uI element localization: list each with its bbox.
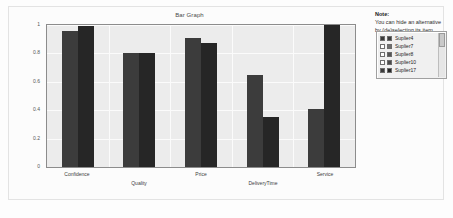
y-axis-tick-label: 0.4 bbox=[12, 106, 40, 112]
color-swatch-icon bbox=[387, 36, 392, 41]
legend-item[interactable]: Suplier10 bbox=[378, 58, 439, 66]
legend-item-label: Suplier17 bbox=[395, 67, 416, 73]
x-axis-tick-label: Service bbox=[317, 171, 334, 177]
plot-area bbox=[46, 24, 356, 168]
x-axis-tick: Quality bbox=[108, 169, 170, 193]
note-title: Note: bbox=[375, 11, 447, 18]
color-swatch-icon bbox=[387, 60, 392, 65]
legend-item[interactable]: Suplier4 bbox=[378, 34, 439, 42]
bar bbox=[123, 53, 139, 167]
legend-item-label: Suplier8 bbox=[395, 51, 413, 57]
bar-group bbox=[232, 25, 294, 167]
chart-container: Bar Graph 00.20.40.60.81 ConfidenceQuali… bbox=[12, 8, 367, 193]
bar bbox=[247, 75, 263, 167]
note-line-1: You can hide an alternative bbox=[375, 19, 447, 26]
x-axis-tick-label: Confidence bbox=[64, 171, 89, 177]
color-swatch-icon bbox=[387, 44, 392, 49]
y-axis-tick-label: 0.6 bbox=[12, 78, 40, 84]
legend-item-label: Suplier4 bbox=[395, 35, 413, 41]
chart-title: Bar Graph bbox=[12, 12, 367, 18]
bar-group bbox=[170, 25, 232, 167]
legend-item-label: Suplier7 bbox=[395, 43, 413, 49]
bar bbox=[139, 53, 155, 167]
legend-item-label: Suplier10 bbox=[395, 59, 416, 65]
bar-group bbox=[293, 25, 355, 167]
legend-scrollbar-thumb[interactable] bbox=[439, 33, 445, 47]
y-axis-tick-label: 0.2 bbox=[12, 135, 40, 141]
y-axis-tick-label: 1 bbox=[12, 21, 40, 27]
legend-scrollbar[interactable] bbox=[438, 33, 445, 77]
checkbox-icon[interactable] bbox=[380, 52, 385, 57]
x-axis-tick: DeliveryTime bbox=[232, 169, 294, 193]
x-axis-tick-label: Quality bbox=[131, 180, 147, 186]
bar bbox=[263, 117, 279, 167]
checkbox-icon[interactable] bbox=[380, 60, 385, 65]
bar bbox=[185, 38, 201, 167]
bar bbox=[78, 26, 94, 167]
x-axis-tick: Service bbox=[294, 169, 356, 193]
bar-graph-screen: Bar Graph 00.20.40.60.81 ConfidenceQuali… bbox=[0, 0, 453, 218]
bar-group bbox=[47, 25, 109, 167]
bar bbox=[324, 25, 340, 167]
color-swatch-icon bbox=[387, 68, 392, 73]
x-axis-tick-label: DeliveryTime bbox=[249, 180, 278, 186]
legend-list[interactable]: Suplier4Suplier7Suplier8Suplier10Suplier… bbox=[376, 31, 447, 79]
legend-item[interactable]: Suplier8 bbox=[378, 50, 439, 58]
legend-item[interactable]: Suplier7 bbox=[378, 42, 439, 50]
checkbox-icon[interactable] bbox=[380, 68, 385, 73]
x-axis-tick: Price bbox=[170, 169, 232, 193]
x-axis-tick: Confidence bbox=[46, 169, 108, 193]
bar bbox=[62, 31, 78, 167]
bar bbox=[308, 109, 324, 167]
x-axis-tick-label: Price bbox=[195, 171, 206, 177]
checkbox-icon[interactable] bbox=[380, 36, 385, 41]
legend-item[interactable]: Suplier17 bbox=[378, 66, 439, 74]
checkbox-icon[interactable] bbox=[380, 44, 385, 49]
color-swatch-icon bbox=[387, 52, 392, 57]
bar bbox=[201, 43, 217, 167]
y-axis-tick-label: 0.8 bbox=[12, 49, 40, 55]
bar-group bbox=[109, 25, 171, 167]
y-axis-tick-label: 0 bbox=[12, 163, 40, 169]
